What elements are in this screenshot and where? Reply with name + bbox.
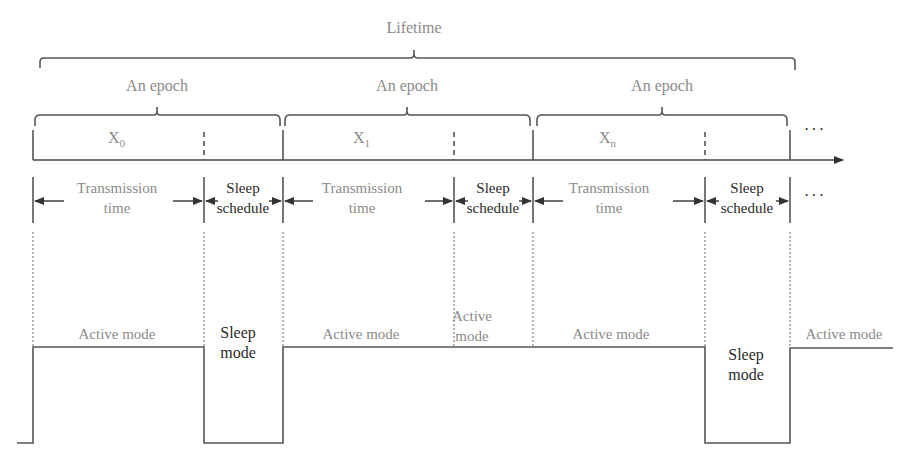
epoch-label-3: An epoch — [631, 78, 693, 94]
epoch-label-1: An epoch — [126, 78, 188, 94]
active-mode-short-label: Active mode — [452, 306, 492, 346]
transmission-time-label-1: Transmission time — [77, 178, 157, 218]
epoch-brace-3 — [537, 107, 787, 126]
epoch-xn: Xn — [599, 130, 616, 149]
epoch-brace-2 — [285, 107, 530, 126]
epoch-label-2: An epoch — [376, 78, 438, 94]
active-mode-label-2: Active mode — [322, 327, 399, 342]
active-mode-label-4: Active mode — [805, 327, 882, 342]
sleep-schedule-label-3: Sleep schedule — [721, 178, 773, 218]
ellipsis-bottom: ··· — [804, 188, 826, 204]
lifetime-brace — [40, 50, 795, 70]
epoch-brace-1 — [35, 107, 280, 126]
transmission-time-label-2: Transmission time — [322, 178, 402, 218]
sleep-mode-label-1: Sleep mode — [220, 323, 256, 363]
active-mode-label-1: Active mode — [78, 327, 155, 342]
sleep-schedule-label-1: Sleep schedule — [217, 178, 269, 218]
sleep-schedule-label-2: Sleep schedule — [467, 178, 519, 218]
ellipsis-top: ··· — [804, 122, 826, 138]
lifetime-label: Lifetime — [386, 20, 441, 36]
timing-diagram-graphics — [0, 0, 917, 472]
active-mode-label-3: Active mode — [572, 327, 649, 342]
epoch-x0: X0 — [108, 130, 125, 149]
epoch-x1: X1 — [353, 130, 370, 149]
sleep-mode-label-2: Sleep mode — [728, 345, 764, 385]
transmission-time-label-3: Transmission time — [569, 178, 649, 218]
